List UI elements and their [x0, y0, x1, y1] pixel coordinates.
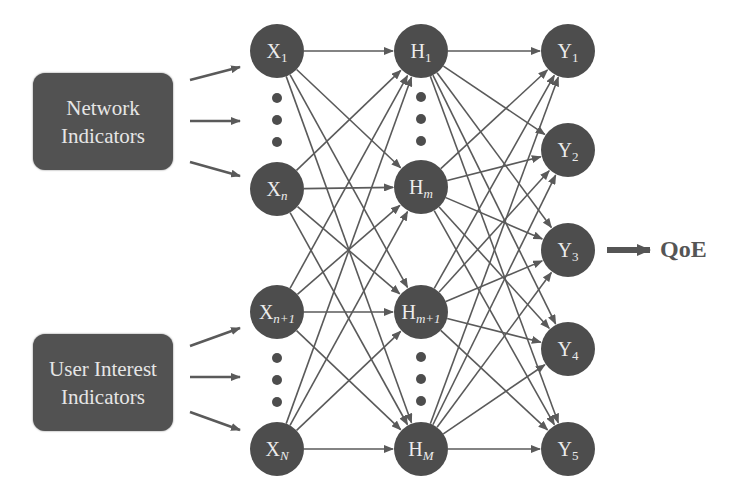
ellipsis-dot	[272, 353, 282, 363]
user-interest-indicators-box: User Interest Indicators	[33, 334, 173, 431]
ellipsis-dot	[416, 374, 426, 384]
ellipsis-dot	[272, 115, 282, 125]
edge-Hm+1-Y5	[441, 330, 548, 430]
node-Y5: Y5	[541, 422, 595, 476]
network-indicators-label-line2: Indicators	[61, 122, 145, 150]
node-XN: XN	[250, 422, 304, 476]
node-Y3: Y3	[541, 223, 595, 277]
network-indicators-label-line1: Network	[66, 94, 139, 122]
input-group-arrows	[190, 67, 240, 430]
edge-H1-Y2	[443, 66, 544, 134]
ellipsis-dot	[416, 92, 426, 102]
edge-Xn-Hm	[304, 187, 393, 188]
edge-Hm-Y5	[434, 211, 554, 425]
node-Hm: Hm	[394, 160, 448, 214]
ellipsis-dot	[416, 136, 426, 146]
input-arrow	[190, 67, 240, 80]
input-arrow	[190, 328, 240, 346]
ellipsis-dot	[272, 397, 282, 407]
edge-Hm+1-Y1	[434, 75, 554, 288]
node-HM: HM	[394, 422, 448, 476]
node-Y4: Y4	[541, 322, 595, 376]
input-arrow	[190, 412, 240, 430]
ellipsis-dot	[272, 137, 282, 147]
edge-X1-Hm	[297, 70, 401, 168]
node-Xn: Xn	[250, 162, 304, 216]
node-X1: X1	[250, 24, 304, 78]
node-Y2: Y2	[541, 123, 595, 177]
node-Hm+1: Hm+1	[394, 285, 448, 339]
edge-Hm+1-Y2	[439, 171, 549, 292]
user-interest-label-line2: Indicators	[61, 383, 145, 411]
edge-Hm-Y4	[439, 207, 549, 328]
edge-Hm-Y1	[441, 70, 548, 169]
input-arrow	[190, 162, 240, 176]
ellipsis-dot	[416, 114, 426, 124]
network-indicators-box: Network Indicators	[33, 73, 173, 170]
ellipsis-dot	[416, 352, 426, 362]
connection-edges	[286, 51, 558, 449]
node-Xn+1: Xn+1	[250, 285, 304, 339]
node-H1: H1	[394, 24, 448, 78]
network-nodes: X1XnXn+1XNH1HmHm+1HMY1Y2Y3Y4Y5	[250, 24, 595, 476]
edge-H1-Y3	[437, 73, 551, 228]
user-interest-label-line1: User Interest	[49, 355, 157, 383]
ellipsis-dot	[272, 375, 282, 385]
edge-HM-Y3	[437, 273, 551, 428]
edge-Xn-H1	[296, 70, 400, 170]
qoe-label: QoE	[660, 236, 707, 263]
node-Y1: Y1	[541, 24, 595, 78]
ellipsis-dot	[416, 396, 426, 406]
ellipsis-dot	[272, 93, 282, 103]
